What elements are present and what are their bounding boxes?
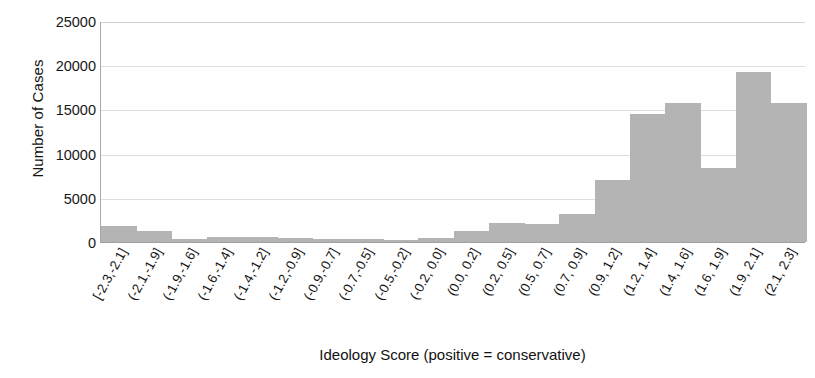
- bar: [348, 239, 384, 242]
- bar: [418, 238, 454, 242]
- bar: [242, 237, 278, 242]
- y-axis-tick-label: 20000: [4, 59, 96, 73]
- x-axis-tick-label: (-0.9,-0.7]: [312, 246, 347, 256]
- bar: [454, 231, 490, 242]
- x-axis-tick-label: (1.2, 1.4]: [629, 246, 664, 256]
- x-axis-tick-label: (-1.2,-0.9]: [276, 246, 311, 256]
- bar: [524, 224, 560, 242]
- x-axis-tick-label: (-0.2, 0.0]: [417, 246, 452, 256]
- x-axis-tick-label: [-2.3,-2.1]: [100, 246, 135, 256]
- x-axis-tick-label: (-0.7,-0.5]: [347, 246, 382, 256]
- x-axis-tick-label: (0.7, 0.9]: [558, 246, 593, 256]
- bar: [101, 226, 137, 242]
- x-axis-tick-label: (-0.5,-0.2]: [382, 246, 417, 256]
- bar: [489, 223, 525, 242]
- x-axis-tick-label: (-1.9,-1.6]: [171, 246, 206, 256]
- y-axis-tick-label: 25000: [4, 15, 96, 29]
- x-axis-tick-label: (1.6, 1.9]: [699, 246, 734, 256]
- x-axis-tick-label: (0.5, 0.7]: [523, 246, 558, 256]
- y-axis-tick-label: 15000: [4, 103, 96, 117]
- bar: [665, 103, 701, 242]
- bar: [595, 180, 631, 242]
- x-axis-title: Ideology Score (positive = conservative): [100, 346, 805, 363]
- bar: [559, 214, 595, 242]
- bar: [207, 237, 243, 242]
- bar-series: [101, 22, 805, 242]
- bar: [136, 231, 172, 242]
- histogram-figure: Number of Cases 050001000015000200002500…: [0, 0, 815, 378]
- x-axis-tick-label: (0.0, 0.2]: [453, 246, 488, 256]
- x-axis-tick-label: (-2.1,-1.9]: [135, 246, 170, 256]
- bar: [277, 238, 313, 242]
- x-axis-tick-labels: [-2.3,-2.1](-2.1,-1.9](-1.9,-1.6](-1.6,-…: [100, 246, 805, 342]
- y-axis-tick-labels: 0500010000150002000025000: [0, 0, 96, 378]
- x-axis-tick-label: (2.1, 2.3]: [770, 246, 805, 256]
- plot-area: [100, 22, 805, 243]
- bar: [172, 239, 208, 242]
- bar: [383, 240, 419, 242]
- x-axis-tick-label: (0.9, 1.2]: [594, 246, 629, 256]
- bar: [736, 72, 772, 242]
- bar: [313, 239, 349, 242]
- x-axis-tick-label: (-1.6,-1.4]: [206, 246, 241, 256]
- x-axis-tick-label: (1.9, 2.1]: [735, 246, 770, 256]
- x-axis-tick-label-text: [-2.3,-2.1]: [90, 246, 129, 302]
- x-axis-tick-label: (-1.4,-1.2]: [241, 246, 276, 256]
- x-axis-tick-label: (0.2, 0.5]: [488, 246, 523, 256]
- x-axis-tick-label: (1.4, 1.6]: [664, 246, 699, 256]
- bar: [630, 114, 666, 242]
- y-axis-tick-label: 10000: [4, 148, 96, 162]
- bar: [771, 103, 807, 242]
- bar: [700, 168, 736, 242]
- y-axis-tick-label: 0: [4, 236, 96, 250]
- y-axis-tick-label: 5000: [4, 192, 96, 206]
